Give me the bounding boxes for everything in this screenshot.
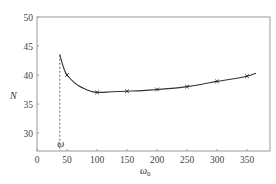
data-curve (60, 55, 256, 93)
y-tick-label: 35 (24, 100, 34, 110)
x-tick-label: 0 (35, 155, 40, 165)
y-axis-label: N (9, 90, 18, 101)
plot-frame (37, 17, 270, 151)
data-markers (65, 73, 249, 94)
y-tick-label: 50 (24, 13, 34, 23)
y-tick-label: 40 (24, 71, 34, 81)
x-marker-icon (65, 73, 69, 77)
omega-annotation: ω (57, 55, 64, 151)
omega-label: ω (57, 138, 64, 149)
x-tick-label: 250 (180, 155, 195, 165)
x-tick-label: 300 (210, 155, 225, 165)
line-chart: 050100150200250300350 3035404550 ω N ω0 (0, 0, 276, 184)
x-axis-label: ω0 (140, 165, 151, 178)
x-tick-label: 350 (240, 155, 255, 165)
x-tick-label: 100 (90, 155, 105, 165)
x-tick-label: 150 (120, 155, 135, 165)
y-tick-label: 45 (24, 42, 34, 52)
x-tick-label: 50 (62, 155, 72, 165)
y-tick-label: 30 (24, 129, 34, 139)
x-tick-label: 200 (150, 155, 165, 165)
